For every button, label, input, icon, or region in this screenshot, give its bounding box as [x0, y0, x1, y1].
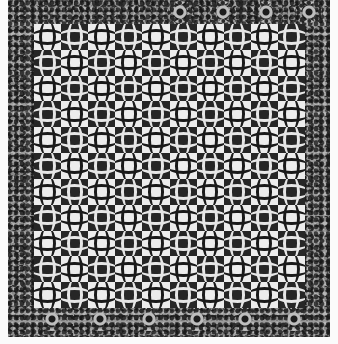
quilt-block: [170, 127, 197, 153]
quilt-block: [34, 127, 61, 153]
rosette-medallion: [85, 307, 115, 331]
quilt-block: [224, 50, 251, 76]
quilt-block: [251, 153, 278, 179]
quilt-block: [278, 50, 305, 76]
quilt-block: [170, 179, 197, 205]
quilt-block: [61, 205, 88, 231]
quilt-block: [278, 76, 305, 102]
quilt-block: [251, 282, 278, 308]
quilt-block: [88, 256, 115, 282]
quilt-block: [197, 50, 224, 76]
quilt-center-field: [34, 24, 305, 308]
quilt-block: [251, 24, 278, 50]
quilt-block: [34, 50, 61, 76]
quilt-block: [224, 24, 251, 50]
quilt-block: [142, 127, 169, 153]
quilt-block: [88, 282, 115, 308]
quilt-block: [170, 76, 197, 102]
quilt-block: [251, 127, 278, 153]
quilt-block: [142, 24, 169, 50]
quilt-block: [61, 76, 88, 102]
photograph: Quilt: [0, 0, 338, 344]
quilt-block: [224, 205, 251, 231]
quilt-block: [251, 205, 278, 231]
quilt-block: [34, 231, 61, 257]
quilt-block: [88, 127, 115, 153]
quilt-block: [34, 256, 61, 282]
quilt-block: [115, 256, 142, 282]
quilt-block: [197, 256, 224, 282]
quilt-block: [142, 256, 169, 282]
quilt-block: [197, 153, 224, 179]
quilt-block: [197, 76, 224, 102]
quilt-block: [115, 127, 142, 153]
quilt-block: [197, 127, 224, 153]
quilt-block: [224, 179, 251, 205]
quilt-block: [88, 76, 115, 102]
quilt-block: [224, 256, 251, 282]
quilt-block: [278, 205, 305, 231]
quilt-block: [88, 101, 115, 127]
quilt-block: [88, 231, 115, 257]
quilt-block: [224, 231, 251, 257]
quilt-block: [251, 231, 278, 257]
quilt-block: [61, 127, 88, 153]
quilt-block: [88, 205, 115, 231]
quilt-block: [251, 101, 278, 127]
quilt-block: [115, 101, 142, 127]
quilt-block: [170, 256, 197, 282]
rosette-medallion: [182, 307, 212, 331]
rosette-medallion: [279, 307, 309, 331]
quilt-block: [170, 24, 197, 50]
quilt-block: [142, 179, 169, 205]
quilt-block: [251, 179, 278, 205]
rosette-medallion: [167, 1, 193, 23]
quilt-block: [115, 205, 142, 231]
quilt-block: [224, 282, 251, 308]
quilt-block: [61, 101, 88, 127]
quilt-block: [224, 127, 251, 153]
quilt-block: [61, 50, 88, 76]
quilt-block: [224, 153, 251, 179]
quilt-block: [224, 101, 251, 127]
quilt-block: [34, 153, 61, 179]
quilt-block: [61, 256, 88, 282]
quilt-block: [115, 282, 142, 308]
quilt-block: [197, 101, 224, 127]
quilt-block: [142, 282, 169, 308]
quilt-block: [251, 76, 278, 102]
quilt-block: [115, 50, 142, 76]
quilt-block: [197, 231, 224, 257]
quilt-block: [197, 24, 224, 50]
quilt-block: [88, 179, 115, 205]
quilt-block: [115, 24, 142, 50]
quilt-block: [88, 153, 115, 179]
quilt-block: [34, 76, 61, 102]
rosette-medallion: [37, 307, 67, 331]
quilt-block: [170, 153, 197, 179]
quilt-block: [88, 50, 115, 76]
quilt-block: [61, 231, 88, 257]
quilt-block: [115, 231, 142, 257]
rosette-medallion: [253, 1, 279, 23]
quilt-block: [115, 76, 142, 102]
quilt-block: [278, 231, 305, 257]
quilt-block: [278, 101, 305, 127]
quilt-block: [34, 282, 61, 308]
quilt-block: [197, 205, 224, 231]
quilt-block: [170, 282, 197, 308]
quilt-block: [278, 282, 305, 308]
quilt-block: [34, 24, 61, 50]
quilt-block: [251, 256, 278, 282]
quilt-block: [170, 50, 197, 76]
rosette-medallion: [134, 307, 164, 331]
quilt-block: [142, 231, 169, 257]
quilt-block: [61, 282, 88, 308]
top-border-rosettes: [158, 1, 330, 23]
quilt-block: [34, 179, 61, 205]
quilt-block: [88, 24, 115, 50]
quilt-block: [251, 50, 278, 76]
quilt-block: [34, 205, 61, 231]
quilt-block: [170, 231, 197, 257]
quilt-block: [61, 179, 88, 205]
